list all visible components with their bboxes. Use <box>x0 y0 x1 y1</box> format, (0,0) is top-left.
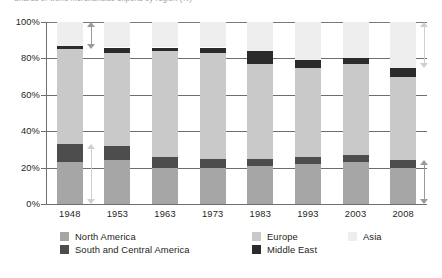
bar-1963[interactable] <box>152 22 178 204</box>
bar-segment-2008-north-america[interactable] <box>390 168 416 204</box>
legend-item-south-and-central-america[interactable]: South and Central America <box>60 244 190 255</box>
bar-segment-1963-asia[interactable] <box>152 22 178 47</box>
y-axis-label-100%: 100% <box>0 17 40 27</box>
stacked-bar-chart: Shares of world merchandise exports by r… <box>0 0 442 278</box>
legend-row-2: South and Central AmericaMiddle East <box>60 244 442 257</box>
bar-segment-1973-south-and-central-america[interactable] <box>200 159 226 168</box>
legend-swatch-north-america <box>60 232 69 241</box>
bar-1993[interactable] <box>295 22 321 204</box>
americas-share-1948-arrow <box>87 144 96 204</box>
bar-segment-1948-south-and-central-america[interactable] <box>57 144 83 162</box>
bar-segment-1948-europe[interactable] <box>57 49 83 144</box>
bar-segment-1948-asia[interactable] <box>57 22 83 46</box>
arrow-shaft <box>91 148 92 200</box>
plot-area <box>46 22 427 204</box>
legend-label: Middle East <box>267 244 317 255</box>
legend-swatch-asia <box>348 232 357 241</box>
bar-segment-1963-south-and-central-america[interactable] <box>152 157 178 168</box>
x-axis-label-2008: 2008 <box>373 209 433 219</box>
bar-segment-2003-north-america[interactable] <box>343 162 369 204</box>
bar-segment-1963-middle-east[interactable] <box>152 48 178 52</box>
bar-segment-1973-asia[interactable] <box>200 22 226 47</box>
gridline-0% <box>46 204 427 205</box>
bar-segment-1993-north-america[interactable] <box>295 164 321 204</box>
y-axis-label-60%: 60% <box>0 90 40 100</box>
chart-legend: North AmericaEuropeAsia South and Centra… <box>60 231 442 257</box>
bar-segment-1963-europe[interactable] <box>152 51 178 157</box>
arrow-shaft <box>424 164 425 200</box>
y-axis-label-40%: 40% <box>0 126 40 136</box>
bar-segment-1993-europe[interactable] <box>295 68 321 157</box>
legend-swatch-middle-east <box>252 245 261 254</box>
bar-segment-2003-south-and-central-america[interactable] <box>343 155 369 162</box>
gridline-60% <box>46 95 427 96</box>
bar-segment-1953-south-and-central-america[interactable] <box>104 146 130 161</box>
bar-1983[interactable] <box>247 22 273 204</box>
bar-segment-1983-north-america[interactable] <box>247 166 273 204</box>
bar-segment-1953-middle-east[interactable] <box>104 48 130 53</box>
arrow-head-up-icon <box>420 22 428 27</box>
y-axis-label-0%: 0% <box>0 199 40 209</box>
legend-item-north-america[interactable]: North America <box>60 231 136 242</box>
bar-segment-2008-south-and-central-america[interactable] <box>390 160 416 167</box>
arrow-head-up-icon <box>420 160 428 165</box>
asia-share-2008-arrow <box>420 22 429 68</box>
legend-label: North America <box>75 231 136 242</box>
bar-segment-1953-north-america[interactable] <box>104 160 130 204</box>
bar-segment-2003-middle-east[interactable] <box>343 58 369 63</box>
bar-segment-1983-asia[interactable] <box>247 22 273 51</box>
legend-label: South and Central America <box>75 244 190 255</box>
bar-segment-2003-asia[interactable] <box>343 22 369 58</box>
bar-1973[interactable] <box>200 22 226 204</box>
bar-segment-1948-middle-east[interactable] <box>57 46 83 50</box>
asia-share-1948-arrow <box>87 22 96 49</box>
bar-segment-2008-europe[interactable] <box>390 77 416 161</box>
gridline-40% <box>46 131 427 132</box>
bar-segment-1963-north-america[interactable] <box>152 168 178 204</box>
bar-segment-1973-north-america[interactable] <box>200 168 226 204</box>
arrow-head-up-icon <box>87 144 95 149</box>
gridline-100% <box>46 22 427 23</box>
arrow-head-down-icon <box>420 199 428 204</box>
bar-segment-1993-asia[interactable] <box>295 22 321 60</box>
y-axis-label-80%: 80% <box>0 53 40 63</box>
americas-share-2008-arrow <box>420 160 429 204</box>
legend-label: Europe <box>267 231 298 242</box>
bar-2003[interactable] <box>343 22 369 204</box>
bar-segment-1983-south-and-central-america[interactable] <box>247 159 273 166</box>
bar-2008[interactable] <box>390 22 416 204</box>
arrow-head-up-icon <box>87 22 95 27</box>
arrow-head-down-icon <box>420 63 428 68</box>
gridline-80% <box>46 58 427 59</box>
bar-segment-1953-europe[interactable] <box>104 53 130 146</box>
bar-segment-1953-asia[interactable] <box>104 22 130 47</box>
legend-item-middle-east[interactable]: Middle East <box>252 244 317 255</box>
legend-label: Asia <box>363 231 382 242</box>
legend-item-europe[interactable]: Europe <box>252 231 298 242</box>
bar-segment-2008-middle-east[interactable] <box>390 68 416 77</box>
legend-row-1: North AmericaEuropeAsia <box>60 231 442 244</box>
bar-segment-2003-europe[interactable] <box>343 64 369 155</box>
bar-segment-1973-europe[interactable] <box>200 53 226 159</box>
bar-1948[interactable] <box>57 22 83 204</box>
arrow-head-down-icon <box>87 44 95 49</box>
bar-segment-1983-europe[interactable] <box>247 64 273 159</box>
legend-item-asia[interactable]: Asia <box>348 231 382 242</box>
bar-segment-2008-asia[interactable] <box>390 22 416 68</box>
arrow-shaft <box>91 26 92 45</box>
bar-segment-1948-north-america[interactable] <box>57 162 83 204</box>
bar-segment-1993-south-and-central-america[interactable] <box>295 157 321 164</box>
gridline-20% <box>46 168 427 169</box>
bar-segment-1983-middle-east[interactable] <box>247 51 273 64</box>
legend-swatch-south-and-central-america <box>60 245 69 254</box>
bar-1953[interactable] <box>104 22 130 204</box>
bar-segment-1993-middle-east[interactable] <box>295 60 321 67</box>
arrow-head-down-icon <box>87 199 95 204</box>
y-axis-label-20%: 20% <box>0 163 40 173</box>
legend-swatch-europe <box>252 232 261 241</box>
arrow-shaft <box>424 26 425 64</box>
bar-segment-1973-middle-east[interactable] <box>200 48 226 53</box>
